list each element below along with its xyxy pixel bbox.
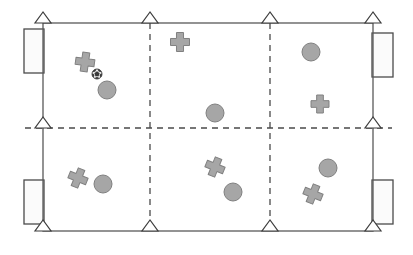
goal-top-right: [372, 33, 393, 77]
player-circle-top-left: [98, 81, 116, 99]
player-circle-top-right: [302, 43, 320, 61]
field-svg-canvas: [0, 0, 413, 255]
goal-bottom-left: [24, 180, 44, 224]
player-circle-bottom-middle: [224, 183, 242, 201]
player-circle-center: [206, 104, 224, 122]
player-circle-bottom-left: [94, 175, 112, 193]
goal-top-left: [24, 29, 44, 73]
soccer-field-diagram: [0, 0, 413, 255]
goal-bottom-right: [372, 180, 393, 224]
player-circle-bottom-right: [319, 159, 337, 177]
